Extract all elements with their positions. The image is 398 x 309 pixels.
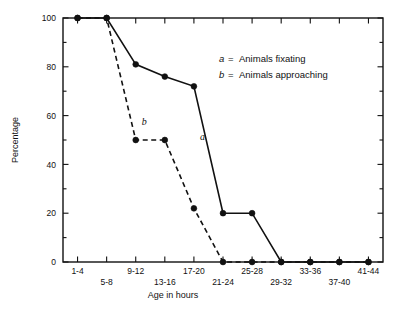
data-point-b [162,137,168,143]
data-point-a [191,83,197,89]
series-inline-label-a: a [200,131,205,142]
y-axis-tick-labels: 020406080100 [42,13,56,267]
x-tick-label: 33-36 [299,266,321,276]
x-tick-label: 1-4 [71,266,84,276]
figure-container: 020406080100 1-45-89-1213-1617-2021-2425… [0,0,398,309]
data-point-b [307,259,313,265]
data-point-b [104,15,110,21]
x-tick-label: 17-20 [183,266,205,276]
data-point-a [220,210,226,216]
legend-key-a: a [219,53,224,64]
legend-description-a: Animals fixating [239,53,306,64]
data-point-a [133,61,139,67]
x-axis-tick-labels: 1-45-89-1213-1617-2021-2425-2829-3233-36… [71,266,379,287]
x-tick-label: 37-40 [328,277,350,287]
y-tick-label: 100 [42,13,56,23]
data-point-b [336,259,342,265]
legend-key-b: b [219,69,224,80]
y-tick-label: 60 [47,111,57,121]
data-point-b [366,259,372,265]
x-tick-label: 21-24 [212,277,234,287]
y-tick-label: 80 [47,62,57,72]
x-axis-title: Age in hours [148,290,199,300]
y-tick-label: 20 [47,208,57,218]
y-tick-label: 0 [51,257,56,267]
legend-separator: = [228,53,234,64]
data-point-b [249,259,255,265]
legend-description-b: Animals approaching [239,69,328,80]
data-point-a [162,74,168,80]
legend: a=Animals fixatingb=Animals approaching [219,53,328,80]
x-tick-label: 9-12 [127,266,144,276]
data-point-b [133,137,139,143]
y-axis-title: Percentage [10,117,20,163]
x-tick-label: 41-44 [358,266,380,276]
legend-separator: = [228,69,234,80]
series-inline-label-b: b [142,116,147,127]
x-tick-label: 5-8 [100,277,113,287]
data-point-b [191,205,197,211]
y-tick-label: 40 [47,160,57,170]
x-tick-label: 25-28 [241,266,263,276]
data-point-b [220,259,226,265]
x-tick-label: 29-32 [270,277,292,287]
line-chart: 020406080100 1-45-89-1213-1617-2021-2425… [0,0,398,309]
data-point-a [249,210,255,216]
data-point-b [75,15,81,21]
series-inline-labels: ab [142,116,205,142]
x-tick-label: 13-16 [154,277,176,287]
data-point-b [278,259,284,265]
